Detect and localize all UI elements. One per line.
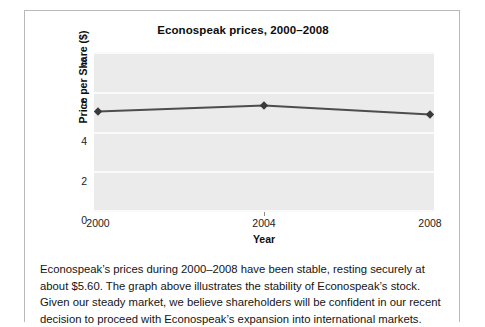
- line-chart-figure: Econospeak prices, 2000–2008 8 6 4 2 0 P…: [25, 11, 461, 243]
- x-axis-title: Year: [94, 233, 434, 245]
- x-tickmark-2004: [264, 212, 265, 216]
- data-point-2000: [94, 107, 102, 115]
- data-point-2004: [260, 101, 268, 109]
- data-point-2008: [426, 110, 434, 118]
- figure-caption: Econospeak’s prices during 2000–2008 hav…: [40, 261, 446, 327]
- document-card: Econospeak prices, 2000–2008 8 6 4 2 0 P…: [24, 10, 460, 322]
- x-tick-label-2008: 2008: [400, 217, 460, 229]
- x-tick-label-2004: 2004: [234, 217, 294, 229]
- x-tick-label-2000: 2000: [68, 217, 128, 229]
- plot-series-layer: [25, 11, 461, 243]
